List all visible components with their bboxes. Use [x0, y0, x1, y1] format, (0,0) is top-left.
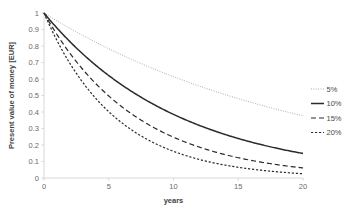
y-tick-label: 0.1: [29, 157, 39, 166]
legend-label-5pct: 5%: [327, 85, 338, 94]
y-tick-label: 0.6: [29, 75, 39, 84]
y-tick-label: 0.5: [29, 91, 39, 100]
legend-label-15pct: 15%: [327, 114, 342, 123]
y-tick-label: 0: [35, 174, 39, 183]
y-tick-label: 0.8: [29, 42, 39, 51]
x-tick-label: 0: [42, 182, 46, 191]
x-tick-label: 5: [107, 182, 111, 191]
y-axis-title: Present value of money [EUR]: [7, 41, 16, 149]
y-tick-label: 0.7: [29, 58, 39, 67]
x-tick-label: 10: [169, 182, 177, 191]
y-tick-label: 0.3: [29, 124, 39, 133]
series-line-20pct: [44, 13, 303, 174]
chart-container: 00.10.20.30.40.50.60.70.80.91 05101520 5…: [0, 0, 358, 218]
x-tick-label: 20: [299, 182, 307, 191]
y-axis-ticks: 00.10.20.30.40.50.60.70.80.91: [29, 9, 44, 183]
y-tick-label: 0.9: [29, 25, 39, 34]
legend-label-20pct: 20%: [327, 128, 342, 137]
chart-legend: 5%10%15%20%: [311, 85, 342, 138]
x-tick-label: 15: [234, 182, 242, 191]
axes: [44, 13, 303, 178]
y-tick-label: 1: [35, 9, 39, 18]
data-series-group: [44, 13, 303, 174]
x-axis-ticks: 05101520: [42, 178, 307, 191]
y-tick-label: 0.2: [29, 141, 39, 150]
series-line-5pct: [44, 13, 303, 116]
legend-label-10pct: 10%: [327, 99, 342, 108]
y-tick-label: 0.4: [29, 108, 39, 117]
present-value-line-chart: 00.10.20.30.40.50.60.70.80.91 05101520 5…: [0, 0, 358, 218]
x-axis-title: years: [164, 196, 184, 205]
